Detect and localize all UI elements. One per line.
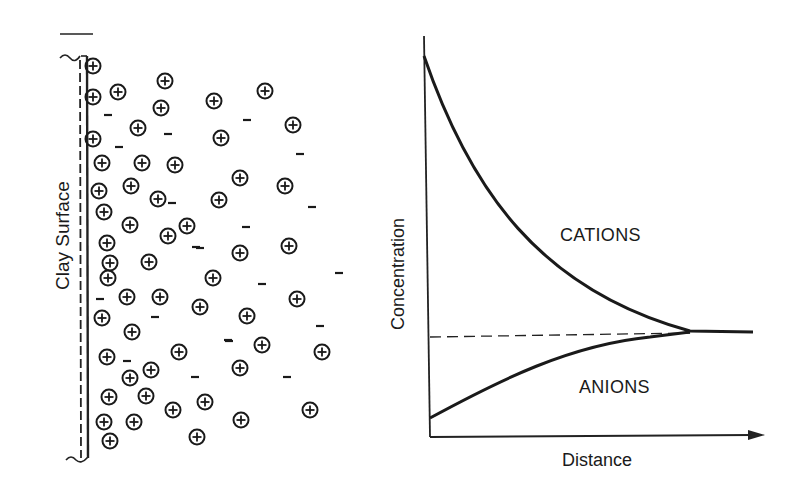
anion-curve <box>430 332 690 418</box>
clay-surface-label: Clay Surface <box>52 181 74 290</box>
diffuse-double-layer-figure: Clay Surface Concentration Distance CATI… <box>0 0 793 502</box>
cation-icon <box>286 118 301 133</box>
cation-icon <box>144 363 159 378</box>
cation-icon <box>258 84 273 99</box>
cation-icon <box>207 94 222 109</box>
cation-icon <box>102 390 117 405</box>
cation-icon <box>158 74 173 89</box>
cation-icon <box>303 403 318 418</box>
cation-icon <box>255 338 270 353</box>
cation-icon <box>92 184 107 199</box>
cation-icon <box>212 193 227 208</box>
cation-icon <box>151 192 166 207</box>
cation-icon <box>127 415 142 430</box>
cation-icon <box>233 361 248 376</box>
y-axis <box>424 36 430 437</box>
cation-icon <box>190 430 205 445</box>
cation-icon <box>97 415 112 430</box>
cation-curve <box>424 56 753 332</box>
cation-icon <box>100 350 115 365</box>
cation-icon <box>125 325 140 340</box>
cations-label: CATIONS <box>560 225 641 246</box>
cation-icon <box>193 300 208 315</box>
cation-icon <box>278 179 293 194</box>
anions-layer <box>96 115 343 377</box>
cation-icon <box>315 345 330 360</box>
cation-icon <box>282 239 297 254</box>
cation-icon <box>97 205 112 220</box>
cation-icon <box>103 256 118 271</box>
cation-icon <box>131 121 146 136</box>
y-axis-label: Concentration <box>388 218 409 330</box>
cation-icon <box>240 309 255 324</box>
cation-icon <box>142 255 157 270</box>
cation-icon <box>100 236 115 251</box>
cation-icon <box>101 271 116 286</box>
cation-icon <box>234 413 249 428</box>
cation-icon <box>214 131 229 146</box>
cation-icon <box>233 246 248 261</box>
x-axis <box>430 435 752 437</box>
x-axis-label: Distance <box>562 450 632 471</box>
cation-icon <box>166 403 181 418</box>
cation-icon <box>95 156 110 171</box>
cation-icon <box>103 434 118 449</box>
cation-icon <box>124 179 139 194</box>
cation-icon <box>180 219 195 234</box>
cation-icon <box>139 389 154 404</box>
cation-icon <box>161 229 176 244</box>
cation-icon <box>123 371 138 386</box>
cations-layer <box>86 59 330 449</box>
cation-icon <box>206 271 221 286</box>
cation-icon <box>135 156 150 171</box>
cation-icon <box>154 101 169 116</box>
cation-icon <box>95 311 110 326</box>
cation-icon <box>123 218 138 233</box>
cation-icon <box>290 292 305 307</box>
cation-icon <box>168 158 183 173</box>
anions-label: ANIONS <box>579 377 650 398</box>
cation-icon <box>111 85 126 100</box>
cation-icon <box>120 290 135 305</box>
cation-icon <box>233 171 248 186</box>
cation-icon <box>153 290 168 305</box>
cation-icon <box>172 345 187 360</box>
x-axis-arrow-icon <box>748 430 765 440</box>
cation-icon <box>198 395 213 410</box>
